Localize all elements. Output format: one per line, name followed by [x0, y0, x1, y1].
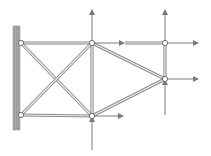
- truss-member: [21, 115, 92, 116]
- truss-members: [21, 43, 165, 116]
- joint-node-icon: [162, 40, 167, 45]
- force-arrows: [92, 10, 198, 150]
- joint-node-icon: [89, 113, 94, 118]
- truss-member: [92, 79, 165, 116]
- joint-node-icon: [18, 112, 23, 117]
- joint-node-icon: [162, 76, 167, 81]
- truss-diagram: [0, 0, 211, 156]
- truss-member: [92, 43, 165, 79]
- joint-node-icon: [89, 40, 94, 45]
- joint-node-icon: [18, 40, 23, 45]
